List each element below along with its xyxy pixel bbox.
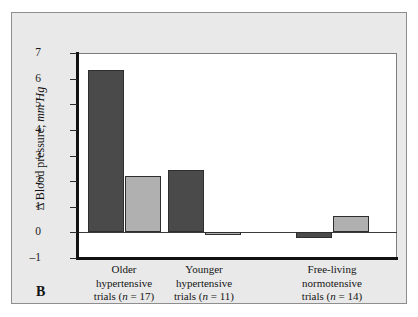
bar-dark-series-group-2 <box>168 170 204 232</box>
category-label-2: Youngerhypertensivetrials (n = 11) <box>144 263 264 304</box>
bar-dark-series-group-3 <box>296 232 332 237</box>
y-tick-mark <box>70 232 77 233</box>
bar-dark-series-group-1 <box>88 70 124 232</box>
category-label-line: Free-living <box>272 263 392 277</box>
bar-light-series-group-3 <box>333 216 369 233</box>
category-label-line: normotensive <box>272 277 392 291</box>
category-label-line: Younger <box>144 263 264 277</box>
sample-size-symbol: n <box>330 290 336 302</box>
category-label-line: hypertensive <box>144 277 264 291</box>
category-label-line: trials (n = 11) <box>144 290 264 304</box>
y-tick-mark <box>70 79 77 80</box>
y-tick-mark <box>70 156 77 157</box>
sample-size-symbol: n <box>202 290 208 302</box>
figure-panel-b: 76543210–1 Olderhypertensivetrials (n = … <box>0 0 418 317</box>
bar-light-series-group-2 <box>205 232 241 235</box>
sample-size-symbol: n <box>122 290 128 302</box>
y-tick-mark <box>70 258 77 259</box>
y-tick-mark <box>70 104 77 105</box>
y-axis-title-text: Δ Blood pressure, <box>33 125 47 210</box>
category-label-line: trials (n = 14) <box>272 290 392 304</box>
y-axis-title-unit: mm Hg <box>33 87 47 122</box>
y-tick-mark <box>70 130 77 131</box>
category-label-3: Free-livingnormotensivetrials (n = 14) <box>272 263 392 304</box>
y-tick-mark <box>70 53 77 54</box>
y-tick-mark <box>70 207 77 208</box>
figure-plate: 76543210–1 Olderhypertensivetrials (n = … <box>11 12 407 304</box>
y-tick-mark <box>70 181 77 182</box>
panel-letter: B <box>36 284 45 300</box>
y-tick-label: –1 <box>1 252 41 264</box>
y-axis-title: Δ Blood pressure, mm Hg <box>33 59 48 239</box>
y-tick-label: 7 <box>1 47 41 59</box>
x-axis-spine <box>76 257 398 260</box>
bar-light-series-group-1 <box>125 176 161 232</box>
